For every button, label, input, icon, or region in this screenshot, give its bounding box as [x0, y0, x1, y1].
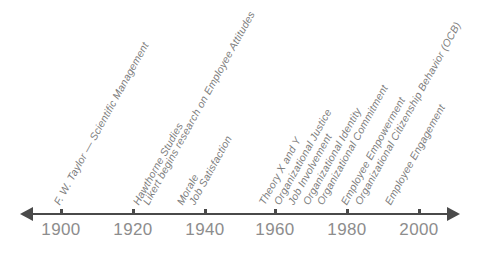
- timeline-axis-line: [30, 213, 452, 215]
- event-label: Job Satisfaction: [187, 133, 234, 206]
- axis-tick-1960: [274, 209, 277, 214]
- axis-tick-1900: [60, 209, 63, 214]
- axis-tick-1980: [346, 209, 349, 214]
- timeline-figure: 190019201940196019802000 F. W. Taylor — …: [0, 0, 477, 254]
- axis-year-label-1900: 1900: [26, 220, 96, 240]
- axis-year-label-1940: 1940: [170, 220, 240, 240]
- axis-year-label-1960: 1960: [240, 220, 310, 240]
- event-label: F. W. Taylor — Scientific Management: [52, 40, 150, 206]
- axis-tick-2000: [418, 209, 421, 214]
- axis-tick-1940: [204, 209, 207, 214]
- axis-arrow-left-icon: [20, 207, 33, 221]
- axis-year-label-1920: 1920: [98, 220, 168, 240]
- axis-arrow-right-icon: [447, 207, 460, 221]
- axis-tick-1920: [132, 209, 135, 214]
- axis-year-label-1980: 1980: [312, 220, 382, 240]
- axis-year-label-2000: 2000: [384, 220, 454, 240]
